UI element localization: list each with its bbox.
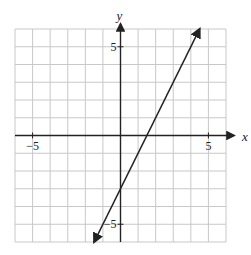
x-axis-label: x	[241, 129, 248, 144]
coordinate-plane: −555−5 x y	[0, 0, 251, 255]
x-tick-label: −5	[26, 139, 39, 153]
x-tick-label: 5	[205, 139, 211, 153]
axes	[15, 24, 234, 242]
y-axis-label: y	[115, 8, 123, 23]
y-tick-label: 5	[111, 40, 117, 54]
